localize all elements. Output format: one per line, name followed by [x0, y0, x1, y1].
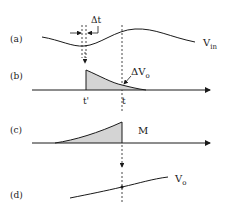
- panel-c: (c) M: [10, 122, 210, 143]
- delta-vo-pointer: [124, 76, 131, 84]
- vin-label: Vin: [202, 37, 217, 51]
- vo-label: Vo: [174, 173, 186, 187]
- t-prime-tick-label: t': [83, 96, 89, 106]
- convolution-diagram: (a) Vin Δt (b) t' t ΔVo (c): [0, 0, 226, 216]
- vo-point: [121, 186, 124, 189]
- delta-vo-label: ΔVo: [131, 66, 150, 80]
- memory-function-shade: [55, 122, 122, 143]
- vin-curve: [42, 29, 195, 46]
- panel-d-label: (d): [10, 190, 23, 200]
- panel-a-label: (a): [10, 34, 22, 44]
- m-label: M: [138, 125, 148, 136]
- t-tick-label: t: [122, 96, 126, 106]
- panel-c-label: (c): [10, 125, 22, 135]
- panel-d: (d) Vo: [10, 173, 186, 200]
- panel-b: (b) t' t ΔVo: [10, 66, 210, 106]
- vo-curve: [70, 177, 168, 198]
- panel-b-label: (b): [10, 71, 23, 81]
- delta-t-label: Δt: [91, 15, 101, 25]
- panel-a: (a) Vin Δt: [10, 15, 217, 51]
